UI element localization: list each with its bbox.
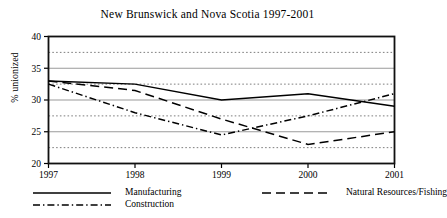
series-line-1	[49, 81, 395, 145]
legend-label-natural-resources-fishing: Natural Resources/Fishing	[346, 187, 447, 197]
series-line-2	[49, 84, 395, 135]
y-tick-label: 25	[32, 127, 42, 137]
legend-label-construction: Construction	[125, 199, 174, 209]
x-axis-tick-labels: 19971998199920002001	[39, 170, 404, 180]
x-tick-label: 1998	[126, 170, 145, 180]
series-lines	[49, 81, 395, 145]
y-tick-label: 20	[32, 159, 42, 169]
x-tick-label: 2001	[385, 170, 404, 180]
y-tick-label: 30	[32, 95, 42, 105]
series-line-0	[49, 81, 395, 106]
x-tick-label: 1999	[212, 170, 231, 180]
x-tick-label: 2000	[299, 170, 318, 180]
y-axis-tick-labels: 2025303540	[32, 32, 42, 169]
y-tick-label: 35	[32, 64, 42, 74]
y-tick-label: 40	[32, 32, 42, 42]
x-tick-label: 1997	[39, 170, 58, 180]
legend-label-manufacturing: Manufacturing	[125, 187, 181, 197]
